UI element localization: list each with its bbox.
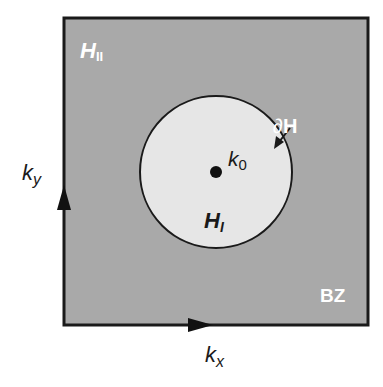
ky-axis-label: ky xyxy=(22,160,42,188)
zone-label: BZ xyxy=(320,285,346,306)
kx-axis-label: kx xyxy=(205,342,225,370)
boundary-label: ∂H xyxy=(273,115,297,137)
brillouin-zone-diagram: HII ∂H k0 HI BZ ky kx xyxy=(0,0,383,387)
k0-point xyxy=(210,166,222,178)
